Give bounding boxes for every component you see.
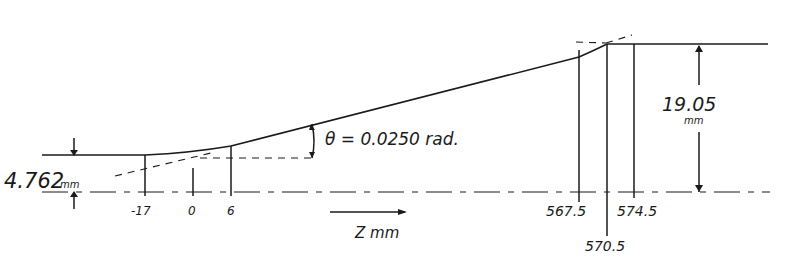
angle-label: θ = 0.0250 rad. [325, 129, 459, 149]
z-label-570-5: 570.5 [585, 238, 625, 254]
arrowhead-icon [309, 152, 315, 158]
upper-height-unit: mm [684, 115, 704, 126]
z-label-neg17: -17 [131, 204, 151, 218]
z-label-0: 0 [188, 204, 196, 218]
arrowhead-icon [398, 209, 407, 215]
lower-height-value: 4.762 [4, 169, 64, 193]
z-label-567-5: 567.5 [546, 203, 586, 219]
lower-height-unit: mm [60, 179, 80, 190]
taper-profile-diagram: 4.762 mm θ = 0.0250 rad. 19.05 mm Z mm -… [0, 0, 795, 269]
arrowhead-icon [695, 45, 703, 52]
z-label-574-5: 574.5 [617, 203, 657, 219]
z-label-6: 6 [227, 204, 235, 218]
upper-height-value: 19.05 [662, 93, 716, 115]
taper-upper-extension-line [606, 35, 632, 43]
axis-label: Z mm [354, 224, 399, 242]
arrowhead-icon [695, 185, 703, 192]
upper-extension-line [576, 42, 606, 43]
